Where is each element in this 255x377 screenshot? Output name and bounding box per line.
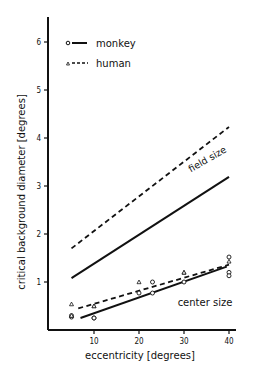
y-tick-label: 2: [36, 230, 41, 239]
legend-human-marker-icon: [67, 62, 70, 65]
y-tick-label: 4: [36, 134, 41, 143]
human-data-point: [182, 270, 186, 274]
monkey-data-point: [227, 255, 231, 259]
monkey-data-point: [182, 280, 186, 284]
monkey-data-point: [92, 316, 96, 320]
y-axis-label: critical background diameter [degrees]: [16, 94, 27, 290]
y-tick-label: 6: [36, 38, 41, 47]
x-axis-label: eccentricity [degrees]: [85, 350, 195, 361]
legend: monkey human: [66, 38, 136, 69]
legend-monkey-label: monkey: [96, 38, 136, 49]
y-ticks: 123456: [36, 38, 48, 287]
human-field-size-line: [72, 127, 230, 248]
legend-monkey-marker-icon: [66, 41, 70, 45]
axes: [48, 17, 236, 330]
y-tick-label: 3: [36, 182, 41, 191]
human-data-point: [92, 304, 96, 308]
monkey-data-point: [151, 280, 155, 284]
human-data-point: [137, 280, 141, 284]
chart: 123456 10203040 eccentricity [degrees] c…: [0, 0, 255, 377]
x-tick-label: 20: [134, 337, 144, 346]
human-data-point: [227, 259, 231, 263]
x-tick-label: 30: [179, 337, 189, 346]
monkey-data-point: [151, 291, 155, 295]
y-tick-label: 5: [36, 86, 41, 95]
y-tick-label: 1: [36, 278, 41, 287]
x-ticks: 10203040: [89, 330, 234, 346]
annotation-center-size: center size: [178, 297, 233, 308]
human-data-point: [70, 302, 74, 306]
legend-human-label: human: [96, 58, 131, 69]
monkey-field-size-line: [72, 177, 230, 278]
monkey-data-point: [137, 291, 141, 295]
monkey-data-point: [227, 274, 231, 278]
x-tick-label: 40: [224, 337, 234, 346]
x-tick-label: 10: [89, 337, 99, 346]
annotation-field-size: field size: [186, 144, 228, 175]
